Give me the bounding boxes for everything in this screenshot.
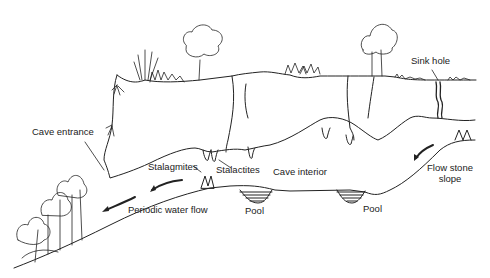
label-stalactites: Stalactites [216, 164, 260, 175]
hillside-line [14, 140, 475, 268]
leader-lines [85, 70, 438, 172]
label-pool-right: Pool [363, 203, 382, 214]
stalactites [203, 128, 353, 161]
label-cave-entrance: Cave entrance [32, 126, 94, 137]
surface-line [117, 72, 476, 82]
label-sink-hole: Sink hole [411, 55, 450, 66]
fissure-3 [347, 76, 354, 140]
sink-hole [436, 82, 443, 118]
label-flow-stone-line1: Flow stone [418, 162, 482, 173]
fissure-4 [368, 77, 374, 118]
vegetation [17, 24, 470, 262]
cave-diagram: Cave entrance Sink hole Stalagmites Stal… [0, 0, 490, 278]
label-periodic-water-flow: Periodic water flow [128, 204, 208, 215]
pool-left-shape [240, 190, 272, 203]
flow-arrows [106, 145, 433, 210]
label-flow-stone-line2: slope [418, 173, 482, 184]
pool-right-shape [337, 190, 365, 203]
label-pool-left: Pool [245, 205, 264, 216]
cave-cross-section-art [0, 0, 490, 278]
label-flow-stone-slope: Flow stone slope [418, 162, 482, 184]
fissure-1 [226, 76, 234, 152]
label-cave-interior: Cave interior [273, 166, 327, 177]
label-stalagmites: Stalagmites [148, 161, 198, 172]
fissure-2 [245, 84, 248, 118]
